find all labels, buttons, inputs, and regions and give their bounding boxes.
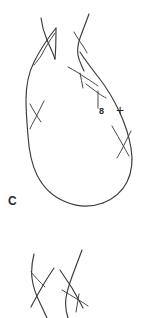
component-label: C bbox=[8, 195, 17, 207]
crossing-tick-right-arc-lower-b bbox=[117, 131, 131, 158]
lower-braid-strand-4 bbox=[60, 270, 83, 308]
crossing-number-label: 8 bbox=[99, 107, 104, 116]
lower-braid-strand-3 bbox=[66, 250, 82, 318]
main-loop-right-edge bbox=[80, 52, 132, 203]
crossing-tick-top-left bbox=[34, 33, 55, 65]
knot-diagram-canvas: 8 + C bbox=[0, 0, 143, 318]
knot-diagram-svg bbox=[0, 0, 143, 318]
crossing-tick-upper-left-b bbox=[30, 104, 41, 122]
crossing-sign-label: + bbox=[116, 103, 124, 117]
crossing-tick-right-arc-upper bbox=[86, 84, 106, 98]
